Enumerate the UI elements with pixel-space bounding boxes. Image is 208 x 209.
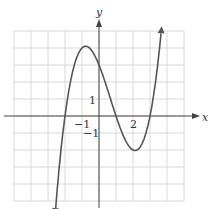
x-axis-label: x xyxy=(202,111,208,124)
curve-arrow-up-icon xyxy=(158,26,165,33)
cubic-graph: x y −1 2 1 −1 xyxy=(0,0,208,209)
x-tick-2: 2 xyxy=(130,118,137,131)
y-tick-neg1: −1 xyxy=(83,127,99,140)
y-axis-label: y xyxy=(95,6,103,19)
x-axis-arrow-icon xyxy=(192,113,200,119)
y-axis-arrow-icon xyxy=(96,19,102,27)
y-tick-1: 1 xyxy=(89,94,96,107)
function-curve xyxy=(56,33,161,208)
